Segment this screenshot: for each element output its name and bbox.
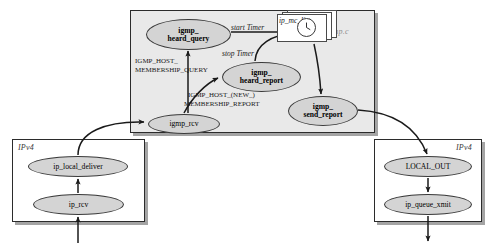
diagram-canvas: igmp.c IPv4 IPv4 <box>0 0 494 245</box>
node-label-line1: ip_rcv <box>67 201 90 209</box>
clock-icon <box>297 18 316 37</box>
node-ip-queue-xmit[interactable]: ip_queue_xmit <box>384 194 472 215</box>
module-ipv4-left-label: IPv4 <box>18 143 34 152</box>
node-label-line2: heard_query <box>166 35 212 43</box>
edge-label-stop-timer: stop Timer <box>222 50 254 58</box>
edge-label-igmp-host-membership-query-l1: IGMP_HOST_ <box>135 58 178 66</box>
node-label-line1: LOCAL_OUT <box>404 163 453 171</box>
node-label-line1: ip_queue_xmit <box>403 201 453 209</box>
node-igmp-send-report[interactable]: igmp_send_report <box>288 96 358 126</box>
edge-label-start-timer: start Timer <box>231 24 264 32</box>
clock-hands-icon <box>298 19 315 36</box>
edge-label-igmp-host-membership-query-l2: MEMBERSHIP_QUERY <box>135 67 208 75</box>
node-label-line2: heard_report <box>238 77 285 85</box>
edge-label-igmp-host-new-membership-report-l1: IGMP_HOST_(NEW_) <box>188 92 255 100</box>
node-ip-local-deliver[interactable]: ip_local_deliver <box>28 156 128 177</box>
node-igmp-heard-report[interactable]: igmp_heard_report <box>222 62 301 92</box>
node-local-out[interactable]: LOCAL_OUT <box>384 156 472 177</box>
node-label-line1: ip_local_deliver <box>51 163 104 171</box>
node-igmp-heard-query[interactable]: igmp_heard_query <box>146 19 231 50</box>
edge-label-igmp-host-new-membership-report-l2: MEMBERSHIP_REPORT <box>184 101 259 109</box>
node-label-line2: send_report <box>301 111 344 119</box>
node-ip-rcv[interactable]: ip_rcv <box>33 194 124 215</box>
node-label-line1: igmp_rcv <box>167 120 200 128</box>
module-ipv4-right-label: IPv4 <box>456 143 472 152</box>
node-igmp-rcv[interactable]: igmp_rcv <box>148 114 220 134</box>
